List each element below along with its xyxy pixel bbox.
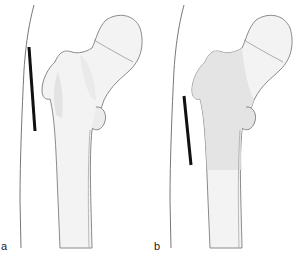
skin-contour-line xyxy=(170,5,184,248)
marker-bar xyxy=(184,96,191,165)
femur-outline xyxy=(42,15,142,248)
panel-b: b xyxy=(150,0,300,260)
panel-label-b: b xyxy=(154,240,160,252)
femur-diagram-a xyxy=(0,0,150,260)
marker-bar xyxy=(29,47,35,131)
panel-a: a xyxy=(0,0,150,260)
skin-contour-line xyxy=(20,5,34,248)
panel-label-a: a xyxy=(1,240,7,252)
femur-diagram-b xyxy=(150,0,300,260)
